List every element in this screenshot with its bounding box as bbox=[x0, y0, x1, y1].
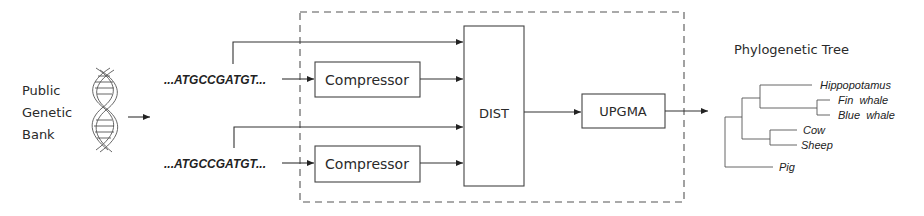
source-label-line-2: Genetic bbox=[22, 105, 72, 120]
dist-label: DIST bbox=[479, 106, 509, 121]
pipeline-diagram: Public Genetic Bank ...ATGCCGATGT... ...… bbox=[0, 0, 924, 216]
source-label-line-1: Public bbox=[22, 83, 60, 98]
tree-leaf-pig: Pig bbox=[779, 161, 796, 173]
bypass-arrow-top bbox=[233, 42, 463, 64]
tree-leaf-sheep: Sheep bbox=[801, 139, 833, 151]
compressor-top-label: Compressor bbox=[325, 72, 409, 88]
dna-helix-icon bbox=[92, 68, 118, 152]
sequence-top: ...ATGCCGATGT... bbox=[164, 73, 266, 87]
tree-leaf-blue-whale: Blue whale bbox=[838, 109, 895, 121]
tree-leaf-cow: Cow bbox=[803, 124, 826, 136]
bypass-arrow-bottom bbox=[234, 127, 463, 148]
sequence-bottom: ...ATGCCGATGT... bbox=[164, 157, 266, 171]
tree-title: Phylogenetic Tree bbox=[734, 42, 849, 57]
tree-leaf-fin-whale: Fin whale bbox=[838, 94, 888, 106]
compressor-bottom-label: Compressor bbox=[325, 156, 409, 172]
upgma-label: UPGMA bbox=[599, 104, 647, 119]
source-label-line-3: Bank bbox=[22, 127, 55, 142]
tree-leaf-hippopotamus: Hippopotamus bbox=[820, 79, 891, 91]
